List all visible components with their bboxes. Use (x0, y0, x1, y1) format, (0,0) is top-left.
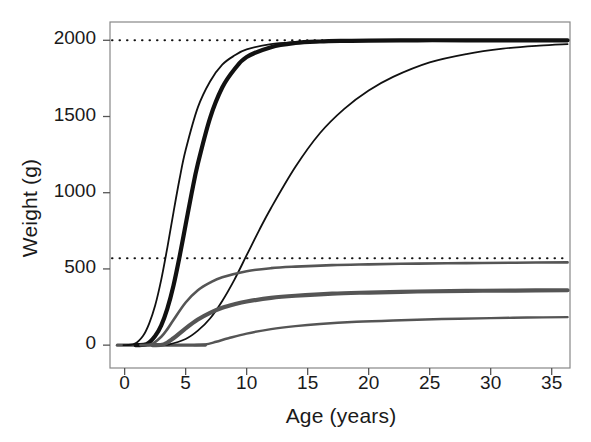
x-axis-title: Age (years) (110, 404, 572, 428)
series-curve-small-early (141, 262, 568, 345)
y-tick-label: 500 (0, 256, 96, 278)
plot-frame (110, 22, 570, 368)
x-tick-label: 5 (156, 372, 216, 394)
y-tick-label: 0 (0, 332, 96, 354)
x-tick-label: 35 (522, 372, 582, 394)
x-tick-label: 30 (461, 372, 521, 394)
y-axis-title: Weight (g) (18, 98, 42, 318)
x-tick-label: 20 (339, 372, 399, 394)
x-tick-label: 15 (278, 372, 338, 394)
series-curve-small-late (194, 317, 567, 345)
y-tick-label: 1000 (0, 180, 96, 202)
x-tick-label: 10 (217, 372, 277, 394)
growth-curve-chart: 0500100015002000 05101520253035 Weight (… (0, 0, 591, 442)
series-curve-large-mid-bold (136, 40, 568, 345)
y-tick-label: 2000 (0, 27, 96, 49)
reference-lines (112, 40, 568, 258)
x-tick-label: 0 (95, 372, 155, 394)
x-tick-label: 25 (400, 372, 460, 394)
data-series (117, 40, 567, 345)
y-tick-label: 1500 (0, 104, 96, 126)
